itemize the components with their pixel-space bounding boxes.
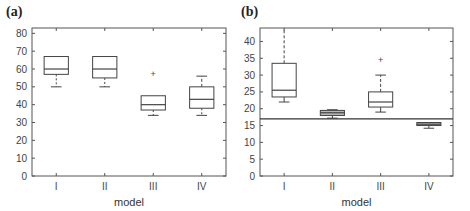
box-IV <box>417 123 441 129</box>
x-axis-title: model <box>114 196 144 208</box>
x-tick-label: I <box>55 181 58 192</box>
box-III: + <box>369 55 393 112</box>
y-tick-label: 0 <box>21 171 27 182</box>
box-iqr <box>190 87 214 108</box>
y-tick-label: 20 <box>16 135 28 146</box>
x-tick-label: III <box>149 181 157 192</box>
y-tick-label: 80 <box>16 28 28 39</box>
box-plot-figure: (a)01020304050607080IIIIIIIVmodel+(b)051… <box>0 0 470 211</box>
panel-label: (a) <box>6 4 23 20</box>
y-tick-label: 50 <box>16 81 28 92</box>
box-III: + <box>141 69 165 115</box>
y-tick-label: 10 <box>16 153 28 164</box>
y-tick-label: 35 <box>244 53 256 64</box>
y-tick-label: 20 <box>244 103 256 114</box>
box-II <box>93 57 117 87</box>
box-iqr <box>141 96 165 110</box>
y-tick-label: 15 <box>244 120 256 131</box>
box-I <box>44 57 68 87</box>
y-tick-label: 0 <box>249 171 255 182</box>
y-tick-label: 70 <box>16 46 28 57</box>
y-tick-label: 30 <box>16 117 28 128</box>
box-IV <box>190 76 214 115</box>
outlier-marker: + <box>378 55 383 65</box>
x-tick-label: III <box>376 181 384 192</box>
y-tick-label: 25 <box>244 86 256 97</box>
panel-label: (b) <box>241 4 258 20</box>
x-tick-label: IV <box>424 181 434 192</box>
x-tick-label: II <box>330 181 336 192</box>
y-tick-label: 40 <box>16 99 28 110</box>
box-II <box>320 110 344 118</box>
chart-panel-b: (b)0510152025303540IIIIIIIVmodel+ <box>241 4 453 208</box>
box-iqr <box>93 57 117 78</box>
box-I <box>272 28 296 102</box>
outlier-marker: + <box>151 69 156 79</box>
box-iqr <box>44 57 68 75</box>
x-tick-label: II <box>102 181 108 192</box>
chart-panel-a: (a)01020304050607080IIIIIIIVmodel+ <box>6 4 226 208</box>
x-tick-label: I <box>283 181 286 192</box>
y-tick-label: 5 <box>249 154 255 165</box>
y-tick-label: 30 <box>244 70 256 81</box>
x-axis-title: model <box>342 196 372 208</box>
y-tick-label: 60 <box>16 64 28 75</box>
y-tick-label: 10 <box>244 137 256 148</box>
box-iqr <box>369 92 393 107</box>
x-tick-label: IV <box>197 181 207 192</box>
box-iqr <box>272 63 296 97</box>
y-tick-label: 40 <box>244 36 256 47</box>
